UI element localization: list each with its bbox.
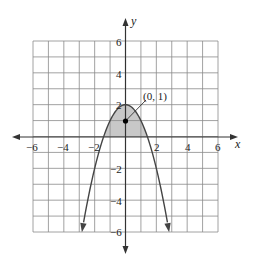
x-tick-label: −6: [26, 141, 38, 153]
x-axis-left-arrow-icon: [12, 134, 20, 140]
x-axis-label: x: [234, 137, 241, 151]
y-tick-label: 2: [116, 99, 122, 111]
y-axis-up-arrow-icon: [123, 18, 129, 26]
x-tick-label: −2: [88, 141, 100, 153]
y-tick-label: −4: [110, 195, 122, 207]
x-tick-label: −4: [57, 141, 69, 153]
curve-right-arrow-icon: [164, 223, 170, 232]
point-label: (0, 1): [143, 90, 167, 103]
y-tick-label: −6: [110, 226, 122, 238]
y-tick-label: 4: [116, 68, 122, 80]
axes: [12, 18, 238, 254]
x-tick-label: 6: [215, 141, 221, 153]
x-tick-label: 2: [154, 141, 160, 153]
point-marker: [123, 118, 128, 123]
y-tick-label: 6: [116, 36, 122, 48]
parabola-graph: (0, 1) x y −6 −4 −2 2 4 6 6 4 2 −2 −4 −6: [0, 0, 254, 267]
y-tick-label: −2: [110, 163, 122, 175]
y-axis-down-arrow-icon: [123, 246, 129, 254]
y-axis-label: y: [130, 14, 137, 28]
x-tick-label: 4: [185, 141, 191, 153]
curve-left-arrow-icon: [80, 223, 86, 232]
